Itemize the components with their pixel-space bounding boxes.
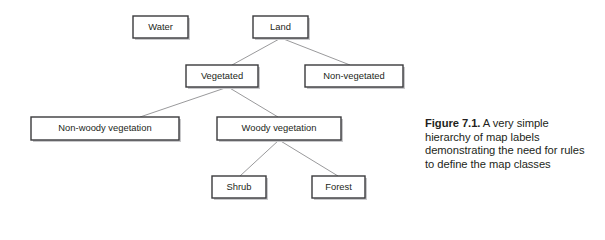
- node-woody[interactable]: Woody vegetation: [217, 117, 343, 142]
- connector-line-woody-to-shrub: [240, 140, 279, 176]
- connector-line-vegetated-to-nonwoody: [140, 87, 228, 117]
- node-label-forest: Forest: [325, 181, 352, 192]
- figure-container: WaterLandVegetatedNon-vegetatedNon-woody…: [0, 0, 605, 240]
- node-nonveg[interactable]: Non-vegetated: [305, 65, 405, 89]
- node-label-vegetated: Vegetated: [201, 70, 243, 81]
- figure-caption: Figure 7.1. A very simple hierarchy of m…: [425, 117, 595, 171]
- node-vegetated[interactable]: Vegetated: [186, 65, 260, 89]
- connector-line-vegetated-to-woody: [228, 87, 278, 117]
- node-shrub[interactable]: Shrub: [212, 176, 268, 200]
- connector-lines-group: [140, 38, 350, 176]
- node-label-land: Land: [270, 21, 291, 32]
- connector-line-land-to-vegetated: [232, 38, 281, 65]
- node-label-water: Water: [148, 21, 173, 32]
- node-nonwoody[interactable]: Non-woody vegetation: [31, 117, 181, 142]
- node-label-nonveg: Non-vegetated: [323, 70, 385, 81]
- map-label-hierarchy-diagram: WaterLandVegetatedNon-vegetatedNon-woody…: [0, 0, 420, 240]
- node-label-nonwoody: Non-woody vegetation: [58, 122, 151, 133]
- connector-line-land-to-nonveg: [281, 38, 350, 65]
- node-boxes-group: WaterLandVegetatedNon-vegetatedNon-woody…: [31, 16, 405, 200]
- connector-line-woody-to-forest: [279, 140, 338, 176]
- node-land[interactable]: Land: [253, 16, 310, 40]
- node-water[interactable]: Water: [133, 16, 190, 40]
- node-forest[interactable]: Forest: [312, 176, 367, 200]
- figure-caption-number: Figure 7.1.: [425, 117, 480, 129]
- node-label-shrub: Shrub: [226, 181, 251, 192]
- node-label-woody: Woody vegetation: [242, 122, 317, 133]
